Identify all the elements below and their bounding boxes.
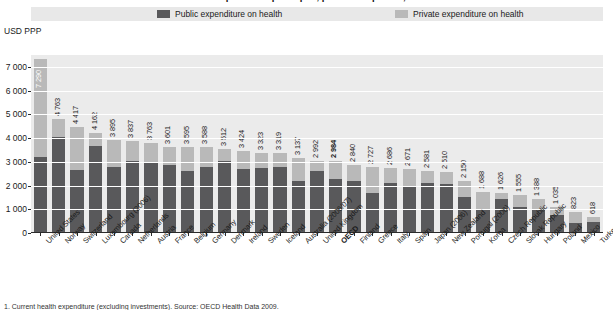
bar-segment-private[interactable] [237,151,250,169]
bar-group[interactable]: 823 [569,55,582,232]
x-axis-label: Hungary [542,239,548,245]
bar-group[interactable]: 3 512 [218,55,231,232]
bar-segment-private[interactable] [476,192,489,210]
bar-group[interactable]: 3 601 [163,55,176,232]
bar-group[interactable]: 4 417 [70,55,83,232]
bar-group[interactable]: 7 290 [34,55,47,232]
bar-value-label: 7 290 [34,70,43,88]
bar-segment-private[interactable] [255,153,268,168]
bar-segment-private[interactable] [218,149,231,161]
bar-segment-private[interactable] [403,169,416,188]
stacked-bar[interactable]: 4 763 [52,119,65,232]
bar-group[interactable]: 3 137 [292,55,305,232]
bar-segment-private[interactable] [181,147,194,171]
gridline [31,162,603,163]
x-axis-label: New Zealand [450,239,456,245]
bar-segment-private[interactable] [329,161,342,179]
x-axis-label: United States [44,239,50,245]
x-axis-label: Canada [118,239,124,245]
bar-segment-private[interactable] [200,147,213,167]
bar-segment-public[interactable] [34,157,47,232]
bar-segment-private[interactable] [366,167,379,193]
y-axis-tick-label: 0 [0,228,27,238]
bar-group[interactable]: 1 688 [476,55,489,232]
y-axis-unit-label: USD PPP [4,26,41,36]
x-axis-label: Australia (2006/07) [303,239,309,245]
x-axis-label: OECD [339,239,345,245]
legend-label-private: Private expenditure on health [413,9,524,19]
bar-value-label: 2 581 [422,150,431,168]
bar-group[interactable]: 3 595 [181,55,194,232]
legend-item-public: Public expenditure on health [157,9,282,19]
bar-group[interactable]: 2 992 [310,55,323,232]
bar-segment-private[interactable] [144,143,157,164]
bar-segment-private[interactable] [440,172,453,184]
bar-segment-private[interactable] [52,119,65,137]
y-axis-tick-label: 2 000 [0,181,27,191]
x-axis-label: Mexico [579,239,585,245]
bar-segment-private[interactable] [89,133,102,146]
bar-group[interactable]: 1 555 [513,55,526,232]
bar-group[interactable]: 3 895 [107,55,120,232]
bar-value-label: 3 595 [182,126,191,144]
bar-value-label: 2 510 [440,151,449,169]
bar-segment-public[interactable] [421,183,434,232]
stacked-bar[interactable]: 3 595 [181,147,194,232]
bar-segment-public[interactable] [255,168,268,232]
bar-group[interactable]: 2 671 [403,55,416,232]
bar-value-label: 3 895 [108,119,117,137]
bar-segment-private[interactable] [569,212,582,223]
x-axis-label: Denmark [229,239,235,245]
bar-group[interactable]: 618 [587,55,600,232]
stacked-bar[interactable]: 3 323 [255,153,268,232]
legend-swatch-public-icon [157,10,170,18]
bar-group[interactable]: 3 319 [273,55,286,232]
bar-value-label: 3 512 [219,128,228,146]
stacked-bar[interactable]: 7 290 [34,59,47,232]
bar-segment-private[interactable] [513,195,526,207]
bar-group[interactable]: 2 510 [440,55,453,232]
bar-group[interactable]: 3 323 [255,55,268,232]
bar-group[interactable]: 3 424 [237,55,250,232]
bar-segment-private[interactable] [126,141,139,161]
stacked-bar[interactable]: 2 727 [366,167,379,232]
y-axis-tick-label: 1 000 [0,204,27,214]
bar-group[interactable]: 4 162 [89,55,102,232]
stacked-bar[interactable]: 4 162 [89,133,102,232]
bar-group[interactable]: 3 588 [200,55,213,232]
bar-group[interactable]: 2 727 [366,55,379,232]
stacked-bar[interactable]: 2 581 [421,171,434,232]
x-axis-label: Luxembourg (2006) [100,239,106,245]
bar-segment-private[interactable] [421,171,434,183]
x-axis-label: Czech Republic [506,239,512,245]
y-axis-tick-mark [28,186,31,187]
bar-segment-private[interactable] [107,140,120,168]
x-axis-label: Sweden [266,239,272,245]
x-axis-label: Poland [561,239,567,245]
bar-segment-private[interactable] [70,127,83,170]
bar-segment-private[interactable] [384,168,397,182]
bar-value-label: 1 626 [496,172,505,190]
x-axis-label: Spain [413,239,419,245]
bar-segment-private[interactable] [458,181,471,197]
bar-group[interactable]: 2 581 [421,55,434,232]
bar-value-label: 3 323 [256,132,265,150]
bar-group[interactable]: 4 763 [52,55,65,232]
bar-segment-private[interactable] [347,165,360,181]
bar-value-label: 823 [570,197,579,209]
stacked-bar[interactable]: 2 671 [403,169,416,232]
x-axis-label: Ireland [247,239,253,245]
x-axis-label: Turkey (2005) [598,239,604,245]
x-axis-label: Italy [395,239,401,245]
bar-value-label: 2 671 [403,148,412,166]
bar-segment-private[interactable] [273,153,286,167]
gridline [31,209,603,210]
bar-group[interactable]: 2 686 [384,55,397,232]
bar-value-label: 3 319 [274,132,283,150]
bar-value-label: 2 992 [311,140,320,158]
x-axis-label: Japan (2006) [432,239,438,245]
y-axis-tick-label: 5 000 [0,109,27,119]
stacked-bar[interactable]: 3 137 [292,158,305,232]
bar-group[interactable]: 2 150 [458,55,471,232]
y-axis-tick-label: 7 000 [0,62,27,72]
